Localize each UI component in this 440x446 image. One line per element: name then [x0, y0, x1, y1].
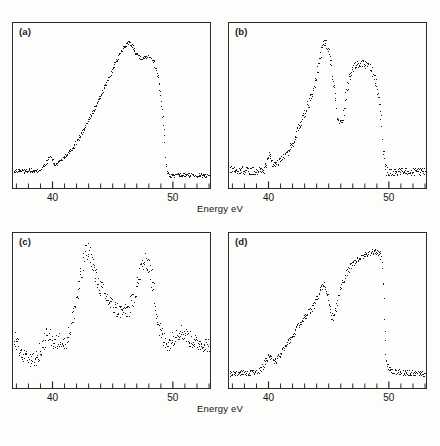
panel-a-plot: [12, 22, 211, 189]
panel-b: (b): [228, 22, 427, 189]
x-tick-label-a-50: 50: [167, 192, 178, 203]
x-axis-title-lower: Energy eV: [197, 403, 243, 414]
panel-a: (a): [12, 22, 211, 189]
x-tick-label-b-40: 40: [263, 192, 274, 203]
x-axis-title-upper: Energy eV: [197, 203, 243, 214]
panel-d-plot: [228, 232, 427, 389]
panel-d: (d): [228, 232, 427, 389]
panel-c: (c): [12, 232, 211, 389]
panel-c-plot: [12, 232, 211, 389]
x-tick-label-b-50: 50: [383, 192, 394, 203]
panel-b-plot: [228, 22, 427, 189]
x-tick-label-c-40: 40: [47, 392, 58, 403]
x-tick-label-a-40: 40: [47, 192, 58, 203]
x-tick-label-d-40: 40: [263, 392, 274, 403]
figure-container: (a) 4050 (b) 4050 (c) 4050 (d) 4050 Ener…: [0, 0, 440, 446]
x-tick-label-c-50: 50: [167, 392, 178, 403]
x-tick-label-d-50: 50: [383, 392, 394, 403]
